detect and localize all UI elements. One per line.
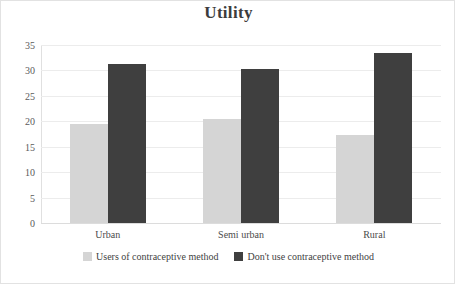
bar-group <box>70 45 146 223</box>
x-axis-label-urban: Urban <box>41 229 174 240</box>
y-axis-line <box>41 45 42 223</box>
y-tick-label: 35 <box>25 40 35 51</box>
legend-label: Users of contraceptive method <box>96 251 218 262</box>
bar-group <box>203 45 279 223</box>
chart-title: Utility <box>1 3 455 23</box>
bar <box>336 135 374 223</box>
legend-item[interactable]: Users of contraceptive method <box>83 251 218 262</box>
dark-gray-swatch <box>234 252 243 261</box>
y-tick-label: 10 <box>25 167 35 178</box>
y-tick-label: 15 <box>25 141 35 152</box>
light-gray-swatch <box>83 252 92 261</box>
x-axis-label-semi-urban: Semi urban <box>174 229 307 240</box>
y-tick-label: 30 <box>25 65 35 76</box>
plot-area: 05101520253035 UrbanSemi urbanRural <box>41 45 441 223</box>
gridline-0: 0 <box>41 223 441 224</box>
y-tick-label: 0 <box>30 218 35 229</box>
bar-group <box>336 45 412 223</box>
bar <box>374 53 412 223</box>
y-tick-label: 20 <box>25 116 35 127</box>
bar <box>108 64 146 223</box>
bar <box>203 119 241 223</box>
legend-item[interactable]: Don't use contraceptive method <box>234 251 373 262</box>
x-axis-label-rural: Rural <box>308 229 441 240</box>
chart-container: Utility 05101520253035 UrbanSemi urbanRu… <box>0 0 455 284</box>
bar <box>241 69 279 223</box>
chart-legend: Users of contraceptive methodDon't use c… <box>1 251 455 262</box>
bar <box>70 124 108 223</box>
y-tick-label: 25 <box>25 90 35 101</box>
y-tick-label: 5 <box>30 192 35 203</box>
legend-label: Don't use contraceptive method <box>247 251 373 262</box>
